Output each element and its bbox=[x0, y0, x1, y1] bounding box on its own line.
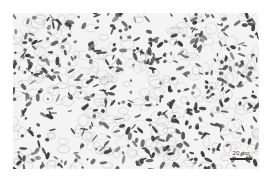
microstructure-pattern bbox=[13, 13, 259, 169]
scale-bar-label: 20 µm bbox=[233, 150, 250, 157]
scale-bar: 20 µm bbox=[228, 150, 254, 162]
micrograph-image bbox=[13, 13, 259, 169]
scale-bar-line bbox=[230, 158, 252, 160]
